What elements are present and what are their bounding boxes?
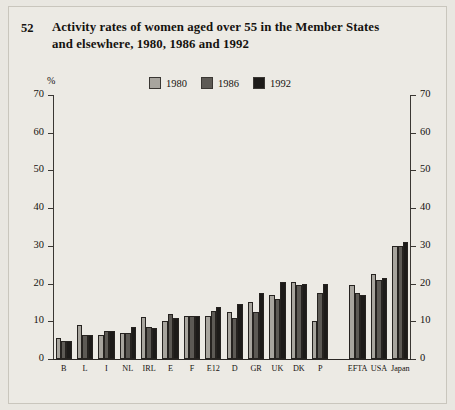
axis-tick (411, 133, 416, 134)
x-axis-tick-label: UK (272, 364, 284, 373)
legend-swatch-icon (149, 77, 161, 89)
bar-group: NL (117, 95, 138, 359)
x-axis-tick-label: D (232, 364, 238, 373)
figure-title: Activity rates of women aged over 55 in … (52, 19, 402, 53)
bar-group: UK (267, 95, 288, 359)
y-axis-tick-label: 10 (34, 314, 45, 325)
y-axis-tick-label: 0 (39, 352, 44, 363)
x-axis-tick-label: NL (122, 364, 133, 373)
axis-tick (48, 359, 53, 360)
x-axis-tick-label: GR (250, 364, 261, 373)
y-axis-tick-label: 50 (34, 163, 45, 174)
bar-group: EFTA (347, 95, 368, 359)
y-axis-tick-label: 50 (420, 163, 431, 174)
y-axis-tick-label: 20 (420, 277, 431, 288)
bar-group: GR (245, 95, 266, 359)
figure-panel: 52 Activity rates of women aged over 55 … (8, 6, 447, 404)
x-axis-tick-label: IRL (143, 364, 156, 373)
y-axis-tick-label: 60 (420, 126, 431, 137)
legend-label: 1980 (166, 78, 187, 89)
x-axis-tick-label: USA (371, 364, 387, 373)
legend-item: 1986 (201, 77, 239, 89)
axis-tick (411, 170, 416, 171)
x-axis-tick-label: Japan (391, 364, 410, 373)
x-axis-tick-label: I (105, 364, 108, 373)
bar-group: P (310, 95, 331, 359)
y-axis-tick-label: 30 (420, 239, 431, 250)
x-axis-tick-label: L (83, 364, 88, 373)
bar-group: L (74, 95, 95, 359)
bar-group: E (160, 95, 181, 359)
bar (323, 284, 328, 359)
axis-tick (411, 359, 416, 360)
y-axis-tick-label: 30 (34, 239, 45, 250)
y-axis-tick-label: 70 (34, 88, 45, 99)
y-axis-tick-label: 70 (420, 88, 431, 99)
legend-label: 1986 (218, 78, 239, 89)
legend-item: 1980 (149, 77, 187, 89)
axis-tick (411, 321, 416, 322)
x-axis-tick-label: EFTA (348, 364, 368, 373)
x-axis-tick-label: E (168, 364, 173, 373)
legend-item: 1992 (253, 77, 291, 89)
y-axis-tick-label: 20 (34, 277, 45, 288)
bar-group: I (96, 95, 117, 359)
figure-header: 52 Activity rates of women aged over 55 … (9, 19, 448, 65)
bar (237, 304, 242, 359)
x-axis-tick-label: F (190, 364, 195, 373)
bar-group: DK (288, 95, 309, 359)
bar (302, 284, 307, 359)
y-axis-unit-label: % (47, 75, 55, 86)
x-axis-baseline (53, 359, 411, 360)
bar-group: B (53, 95, 74, 359)
bar-group: D (224, 95, 245, 359)
y-axis-tick-label: 60 (34, 126, 45, 137)
y-axis-tick-label: 10 (420, 314, 431, 325)
bar-groups: BLINLIRLEFE12DGRUKDKPEFTAUSAJapan (53, 95, 411, 359)
bar-group: IRL (139, 95, 160, 359)
y-axis-tick-label: 40 (34, 201, 45, 212)
bar (195, 316, 200, 359)
axis-tick (411, 284, 416, 285)
bar (152, 328, 157, 359)
legend-label: 1992 (270, 78, 291, 89)
legend-swatch-icon (253, 77, 265, 89)
x-axis-tick-label: B (61, 364, 66, 373)
legend-swatch-icon (201, 77, 213, 89)
axis-tick (411, 95, 416, 96)
bar (131, 327, 136, 359)
x-axis-tick-label: E12 (207, 364, 220, 373)
bar-group: E12 (203, 95, 224, 359)
bar (360, 295, 365, 359)
axis-tick (411, 208, 416, 209)
bar-group: F (181, 95, 202, 359)
bar (109, 331, 114, 359)
bar (173, 318, 178, 359)
bar-group: Japan (390, 95, 411, 359)
bar (259, 293, 264, 359)
bar-group: USA (368, 95, 389, 359)
x-axis-tick-label: P (318, 364, 323, 373)
y-axis-tick-label: 40 (420, 201, 431, 212)
bar (382, 278, 387, 359)
plot-area: 706050403020100 706050403020100 BLINLIRL… (53, 95, 411, 359)
axis-tick (411, 246, 416, 247)
bar (280, 282, 285, 359)
bar (88, 335, 93, 359)
bar (216, 307, 221, 359)
x-axis-tick-label: DK (293, 364, 305, 373)
chart-legend: 198019861992 (149, 77, 291, 89)
y-axis-tick-label: 0 (420, 352, 425, 363)
bar (403, 242, 408, 359)
figure-number: 52 (21, 21, 34, 36)
bar (66, 341, 71, 359)
